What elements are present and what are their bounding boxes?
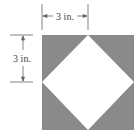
top-dimension-label: 3 in. [56, 11, 74, 22]
left-dimension-label: 3 in. [13, 53, 31, 64]
square-diagram: 3 in. 3 in. [0, 0, 139, 138]
